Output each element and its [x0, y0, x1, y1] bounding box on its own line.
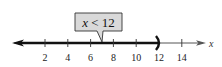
tick-label: 4: [65, 52, 70, 63]
callout-variable: x: [81, 15, 91, 30]
tick-label: 6: [88, 52, 93, 63]
tick-label: 12: [154, 52, 164, 63]
tick-label: 8: [111, 52, 116, 63]
callout-inequality: x < 12: [81, 15, 115, 30]
tick-label: 2: [43, 52, 48, 63]
tick-label: 10: [131, 52, 141, 63]
axis-variable-label: x: [208, 38, 214, 49]
tick-label: 14: [177, 52, 187, 63]
callout-value: 12: [102, 15, 115, 30]
number-line-diagram: x 2468101214 x < 12: [0, 0, 222, 67]
callout-operator: <: [91, 15, 102, 30]
callout: x < 12: [75, 13, 122, 42]
tick-labels: 2468101214: [43, 52, 187, 63]
